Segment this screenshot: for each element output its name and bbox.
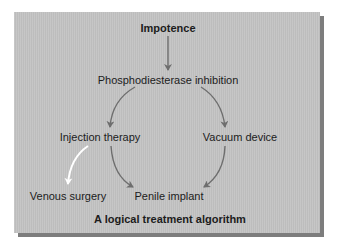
node-phosphodiesterase-inhibition: Phosphodiesterase inhibition (98, 75, 239, 86)
node-injection-therapy: Injection therapy (60, 132, 141, 143)
arrow-pde-to-injection (110, 87, 135, 127)
arrow-injection-to-implant (111, 146, 133, 187)
arrow-vacuum-to-implant (204, 146, 225, 187)
arrow-pde-to-vacuum (201, 87, 225, 127)
node-venous-surgery: Venous surgery (30, 191, 106, 202)
node-penile-implant: Penile implant (134, 191, 203, 202)
arrows-layer (0, 0, 339, 248)
arrow-injection-to-venous (68, 146, 88, 184)
diagram-caption: A logical treatment algorithm (94, 214, 246, 225)
node-impotence: Impotence (140, 23, 195, 34)
node-vacuum-device: Vacuum device (203, 132, 277, 143)
